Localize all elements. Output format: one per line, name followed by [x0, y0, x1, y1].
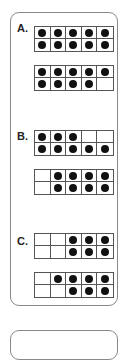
- counter-dot-icon: [38, 80, 46, 88]
- counter-dot-icon: [85, 184, 93, 192]
- ten-frame-cell: [82, 131, 98, 143]
- ten-frame-cell: [97, 27, 113, 39]
- ten-frame-cell: [82, 182, 98, 194]
- counter-dot-icon: [38, 145, 46, 153]
- ten-frame-cell: [97, 273, 113, 285]
- counter-dot-icon: [69, 275, 77, 283]
- ten-frame-cell: [35, 27, 51, 39]
- counter-dot-icon: [85, 145, 93, 153]
- ten-frame-cell: [51, 131, 67, 143]
- counter-dot-icon: [85, 287, 93, 295]
- counter-dot-icon: [38, 41, 46, 49]
- counter-dot-icon: [85, 236, 93, 244]
- counter-dot-icon: [85, 248, 93, 256]
- ten-frame-b1: [34, 130, 114, 156]
- counter-dot-icon: [101, 68, 109, 76]
- ten-frame-cell: [66, 234, 82, 246]
- counter-dot-icon: [101, 248, 109, 256]
- ten-frame-cell: [66, 285, 82, 297]
- ten-frame-cell: [82, 273, 98, 285]
- ten-frame-cell: [82, 234, 98, 246]
- ten-frame-cell: [35, 143, 51, 155]
- counter-dot-icon: [69, 236, 77, 244]
- ten-frame-cell: [35, 285, 51, 297]
- ten-frame-cell: [51, 234, 67, 246]
- counter-dot-icon: [85, 41, 93, 49]
- counter-dot-icon: [85, 275, 93, 283]
- ten-frame-cell: [51, 143, 67, 155]
- problem-card: [10, 12, 118, 306]
- counter-dot-icon: [101, 29, 109, 37]
- ten-frame-c2: [34, 272, 114, 298]
- ten-frame-cell: [51, 66, 67, 78]
- ten-frame-cell: [82, 170, 98, 182]
- ten-frame-cell: [82, 285, 98, 297]
- ten-frame-cell: [35, 246, 51, 258]
- counter-dot-icon: [101, 184, 109, 192]
- ten-frame-cell: [97, 182, 113, 194]
- counter-dot-icon: [54, 275, 62, 283]
- counter-dot-icon: [85, 68, 93, 76]
- counter-dot-icon: [101, 275, 109, 283]
- ten-frame-cell: [66, 78, 82, 90]
- counter-dot-icon: [54, 80, 62, 88]
- counter-dot-icon: [69, 184, 77, 192]
- ten-frame-cell: [82, 143, 98, 155]
- ten-frame-cell: [51, 78, 67, 90]
- counter-dot-icon: [101, 172, 109, 180]
- ten-frame-cell: [66, 39, 82, 51]
- ten-frame-cell: [51, 170, 67, 182]
- counter-dot-icon: [54, 68, 62, 76]
- ten-frame-cell: [82, 78, 98, 90]
- ten-frame-cell: [51, 285, 67, 297]
- counter-dot-icon: [54, 172, 62, 180]
- ten-frame-cell: [97, 170, 113, 182]
- ten-frame-cell: [66, 246, 82, 258]
- ten-frame-cell: [97, 66, 113, 78]
- counter-dot-icon: [69, 68, 77, 76]
- problem-label-a: A.: [17, 22, 28, 34]
- ten-frame-cell: [97, 143, 113, 155]
- counter-dot-icon: [38, 133, 46, 141]
- ten-frame-cell: [66, 143, 82, 155]
- ten-frame-a1: [34, 26, 114, 52]
- ten-frame-cell: [66, 273, 82, 285]
- counter-dot-icon: [101, 236, 109, 244]
- counter-dot-icon: [101, 145, 109, 153]
- counter-dot-icon: [38, 29, 46, 37]
- ten-frame-cell: [51, 273, 67, 285]
- ten-frame-cell: [35, 234, 51, 246]
- counter-dot-icon: [54, 145, 62, 153]
- problem-label-b: B.: [17, 130, 28, 142]
- ten-frame-cell: [97, 39, 113, 51]
- counter-dot-icon: [69, 145, 77, 153]
- ten-frame-b2: [34, 169, 114, 195]
- ten-frame-cell: [51, 246, 67, 258]
- ten-frame-cell: [35, 170, 51, 182]
- ten-frame-cell: [51, 39, 67, 51]
- counter-dot-icon: [69, 287, 77, 295]
- ten-frame-cell: [97, 78, 113, 90]
- ten-frame-cell: [35, 131, 51, 143]
- counter-dot-icon: [69, 248, 77, 256]
- ten-frame-cell: [97, 285, 113, 297]
- counter-dot-icon: [54, 41, 62, 49]
- ten-frame-cell: [35, 182, 51, 194]
- counter-dot-icon: [38, 68, 46, 76]
- ten-frame-cell: [35, 66, 51, 78]
- counter-dot-icon: [69, 29, 77, 37]
- counter-dot-icon: [101, 41, 109, 49]
- counter-dot-icon: [54, 133, 62, 141]
- ten-frame-cell: [82, 27, 98, 39]
- counter-dot-icon: [69, 172, 77, 180]
- ten-frame-cell: [66, 170, 82, 182]
- ten-frame-cell: [97, 131, 113, 143]
- ten-frame-cell: [97, 246, 113, 258]
- ten-frame-c1: [34, 233, 114, 259]
- ten-frame-cell: [66, 131, 82, 143]
- ten-frame-cell: [51, 27, 67, 39]
- ten-frame-cell: [82, 39, 98, 51]
- counter-dot-icon: [54, 184, 62, 192]
- ten-frame-cell: [82, 66, 98, 78]
- counter-dot-icon: [54, 29, 62, 37]
